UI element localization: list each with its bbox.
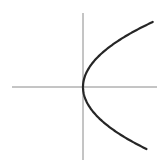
- parabola-figure: Sideways parabola opening to the right w…: [0, 0, 165, 164]
- graph-canvas: [0, 0, 165, 164]
